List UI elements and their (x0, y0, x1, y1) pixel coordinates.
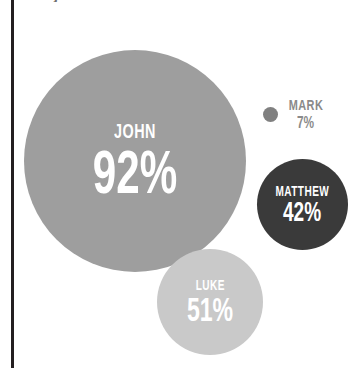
bubble-matthew[interactable]: MATTHEW 42% (257, 159, 348, 250)
page-title: Subject attainment (24, 0, 324, 2)
bubble-chart: Subject attainment JOHN 92% LUKE 51% MAT… (0, 0, 361, 376)
bubble-mark-label-group: MARK 7% (284, 98, 328, 131)
bubble-mark[interactable] (263, 107, 278, 122)
bubble-matthew-value: 42% (283, 199, 321, 226)
left-vertical-rule (11, 0, 14, 368)
bubble-mark-value: 7% (297, 115, 314, 131)
bubble-john-value: 92% (93, 143, 177, 202)
bubble-luke[interactable]: LUKE 51% (157, 249, 263, 355)
bubble-mark-label: MARK (289, 98, 323, 112)
chart-title-clipped: Subject attainment (24, 0, 324, 2)
bubble-john[interactable]: JOHN 92% (24, 50, 246, 272)
bubble-luke-value: 51% (187, 293, 233, 325)
